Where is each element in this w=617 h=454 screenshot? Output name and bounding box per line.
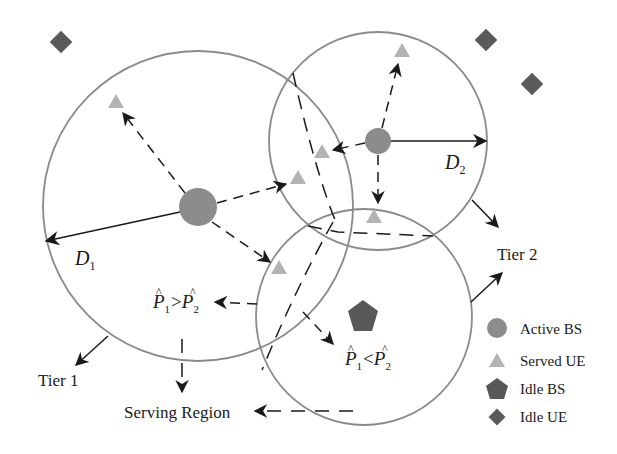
network-diagram: D1 D2 Tier 1 Tier 2 Serving Region P1>P2… [0,0,617,454]
legend-active-bs-icon [487,318,507,338]
svg-text:^: ^ [348,342,354,356]
assoc-tier2-ue4 [382,64,398,128]
idle-bs-icon [348,300,378,331]
assoc-tier1-ue1 [123,113,185,193]
tier2-pointer-arrow-bottom [471,273,502,302]
tier1-active-bs-icon [179,188,217,226]
served-ue-icon [314,144,330,158]
legend-active-bs-label: Active BS [520,321,582,337]
idle-ue-icon [50,31,73,54]
tier2-active-bs-icon [365,128,391,154]
served-ue-icon [108,94,124,108]
legend-idle-ue-label: Idle UE [520,409,567,425]
svg-text:^: ^ [156,285,162,299]
radius-arrows [46,141,486,241]
d1-radius-arrow [46,212,180,241]
served-ue-icon [394,43,410,57]
serving-region-label: Serving Region [124,403,231,422]
served-ue-icon [366,209,382,223]
boundary-tier1-tier2b [262,222,333,370]
d2-label: D2 [444,151,465,177]
tier1-label: Tier 1 [38,371,78,390]
legend-idle-bs-label: Idle BS [520,381,565,397]
lt-pointer-arrow [303,312,333,344]
legend-served-ue-label: Served UE [520,353,585,369]
legend-idle-ue-icon [489,409,506,426]
svg-text:^: ^ [382,342,388,356]
idle-ue-icon [475,29,498,52]
tier1-pointer-arrow [76,336,108,365]
condition-p1-greater-p2: P1>P2 ^ ^ [152,285,199,315]
condition-p1-less-p2: P1<P2 ^ ^ [344,342,391,372]
coverage-circles [43,32,487,425]
served-ue-icon [290,170,306,184]
d1-label: D1 [74,247,95,273]
idle-ue-icon [521,73,544,96]
tier2-pointer-arrow-top [472,200,498,227]
svg-text:^: ^ [190,285,196,299]
gt-pointer-arrow [215,302,257,304]
boundary-tier1-tier2a [293,73,335,220]
legend-idle-bs-icon [486,378,508,399]
serving-region-boundaries [262,73,433,370]
legend: Active BS Served UE Idle BS Idle UE [486,318,585,425]
legend-served-ue-icon [489,353,505,367]
assoc-tier1-ue6 [212,222,270,262]
served-ue-icon [271,260,287,274]
assoc-tier2-ue3 [333,143,365,150]
assoc-tier1-ue2 [217,184,286,203]
tier2-label: Tier 2 [497,245,537,264]
boundary-tier2a-tier2b [308,226,433,236]
served-ues [108,43,410,274]
